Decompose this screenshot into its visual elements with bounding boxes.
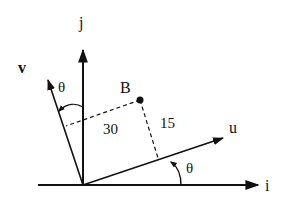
distance-30-label: 30 (103, 121, 118, 137)
projection-to-u (140, 100, 158, 158)
theta-v-label: θ (58, 79, 65, 95)
coordinate-diagram: j i u v B 30 15 θ θ (0, 0, 286, 197)
theta-arc-v (59, 104, 83, 111)
i-axis-label: i (265, 177, 270, 194)
j-axis-label: j (78, 14, 83, 32)
v-vector-label: v (18, 59, 26, 76)
u-vector (83, 138, 223, 185)
theta-arc-u (171, 162, 181, 185)
u-vector-label: u (229, 119, 237, 136)
theta-u-label: θ (186, 160, 193, 176)
point-b-label: B (120, 79, 131, 96)
point-b (137, 97, 144, 104)
distance-15-label: 15 (160, 115, 175, 131)
v-vector (48, 80, 83, 185)
